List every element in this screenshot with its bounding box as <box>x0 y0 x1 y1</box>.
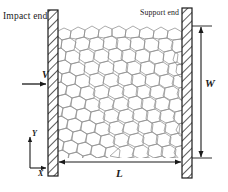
foam-impact-diagram: Impact end Support end V W L Y X <box>0 0 228 192</box>
support-end-plate <box>182 8 192 178</box>
impact-end-plate <box>48 10 58 176</box>
axis-x-label: X <box>38 170 43 178</box>
coordinate-axes <box>30 137 46 168</box>
impact-end-label: Impact end <box>3 12 47 22</box>
width-dimension <box>192 26 212 158</box>
support-end-label: Support end <box>140 9 179 17</box>
length-label: L <box>116 168 123 179</box>
axis-y-label: Y <box>32 130 37 138</box>
velocity-label: V <box>42 70 49 80</box>
diagram-canvas <box>0 0 228 192</box>
width-label: W <box>205 78 215 89</box>
